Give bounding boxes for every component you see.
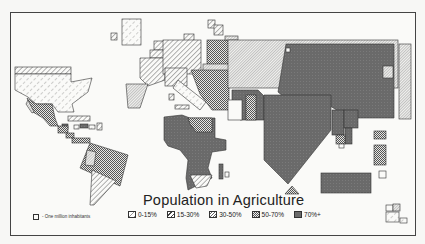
diagonal-hatch-swatch-icon (167, 211, 175, 218)
scale-note: - One million inhabitants (33, 214, 90, 220)
region-southeast-asia (332, 110, 386, 178)
solid-dark-swatch-icon (294, 211, 302, 218)
sparse-hatch-swatch-icon (128, 211, 136, 218)
legend-label: 30-50% (219, 211, 241, 218)
legend-item-50-70: 50-70% (252, 211, 284, 218)
region-middle-east (228, 90, 264, 120)
region-greenland (122, 19, 141, 45)
region-iceland (111, 33, 117, 40)
legend: 0-15% 15-30% 30-50% 50-70% 70%+ (128, 211, 321, 218)
dense-hatch-swatch-icon (209, 211, 217, 218)
region-australia (386, 204, 407, 223)
legend-label: 15-30% (177, 211, 199, 218)
region-indonesia (321, 173, 371, 193)
map-title: Population in Agriculture (143, 192, 304, 208)
legend-item-70-plus: 70%+ (294, 211, 321, 218)
scale-note-text: One million inhabitants (45, 214, 91, 219)
legend-label: 70%+ (304, 211, 321, 218)
legend-item-30-50: 30-50% (209, 211, 241, 218)
legend-label: 0-15% (138, 211, 157, 218)
legend-item-15-30: 15-30% (167, 211, 199, 218)
legend-label: 50-70% (262, 211, 284, 218)
square-unit-icon (33, 214, 39, 220)
crosshatch-swatch-icon (252, 211, 260, 218)
region-africa (164, 115, 229, 190)
legend-item-0-15: 0-15% (128, 211, 157, 218)
region-india (264, 95, 331, 184)
region-south-america (80, 143, 128, 205)
region-japan (399, 44, 411, 119)
